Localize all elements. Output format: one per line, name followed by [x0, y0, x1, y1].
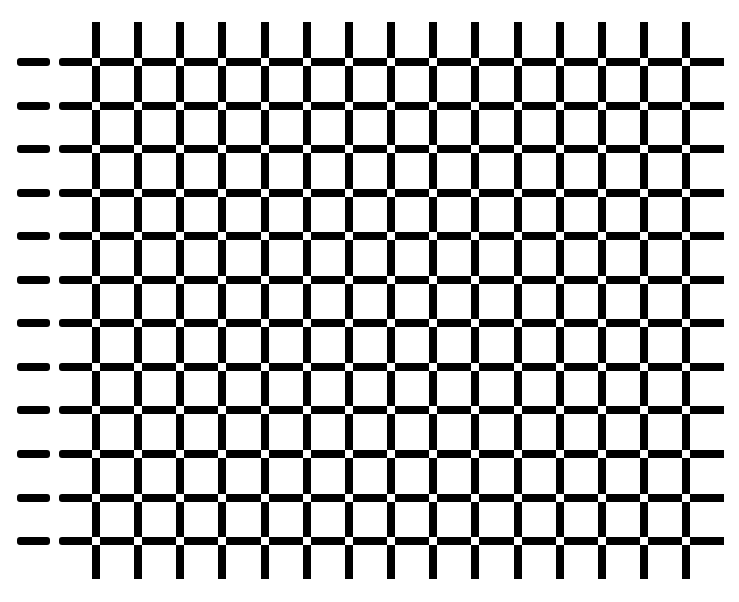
intersection-square: [218, 363, 226, 371]
intersection-square: [471, 276, 479, 284]
intersection-square: [261, 276, 269, 284]
intersection-square: [92, 145, 100, 153]
left-dash-segment: [17, 494, 50, 502]
intersection-square: [261, 537, 269, 545]
intersection-square: [471, 450, 479, 458]
intersection-square: [640, 319, 648, 327]
intersection-square: [640, 145, 648, 153]
intersection-square: [429, 406, 437, 414]
intersection-square: [261, 319, 269, 327]
intersection-square: [429, 145, 437, 153]
left-dash-segment: [17, 232, 50, 240]
intersection-square: [598, 276, 606, 284]
intersection-square: [176, 189, 184, 197]
intersection-square: [303, 537, 311, 545]
intersection-square: [682, 494, 690, 502]
left-dash-segment: [17, 450, 50, 458]
intersection-square: [598, 102, 606, 110]
intersection-square: [429, 276, 437, 284]
intersection-square: [134, 363, 142, 371]
intersection-square: [429, 494, 437, 502]
intersection-square: [134, 537, 142, 545]
intersection-square: [387, 102, 395, 110]
intersection-square: [218, 232, 226, 240]
left-dash-segment: [17, 276, 50, 284]
intersection-square: [387, 58, 395, 66]
intersection-square: [134, 406, 142, 414]
intersection-square: [345, 537, 353, 545]
intersection-square: [176, 494, 184, 502]
intersection-square: [387, 189, 395, 197]
intersection-square: [345, 102, 353, 110]
intersection-square: [598, 145, 606, 153]
intersection-square: [387, 450, 395, 458]
intersection-square: [514, 58, 522, 66]
intersection-square: [303, 232, 311, 240]
intersection-square: [471, 189, 479, 197]
intersection-square: [176, 145, 184, 153]
intersection-square: [556, 276, 564, 284]
intersection-square: [471, 406, 479, 414]
intersection-square: [92, 537, 100, 545]
intersection-square: [261, 406, 269, 414]
intersection-square: [556, 189, 564, 197]
intersection-square: [303, 276, 311, 284]
intersection-square: [514, 145, 522, 153]
intersection-square: [682, 450, 690, 458]
intersection-square: [682, 232, 690, 240]
intersection-square: [303, 494, 311, 502]
intersection-square: [471, 145, 479, 153]
intersection-square: [176, 537, 184, 545]
intersection-square: [218, 406, 226, 414]
intersection-square: [134, 102, 142, 110]
intersection-square: [345, 406, 353, 414]
left-dash-segment: [17, 406, 50, 414]
intersection-square: [556, 58, 564, 66]
intersection-square: [682, 406, 690, 414]
intersection-square: [92, 232, 100, 240]
intersection-square: [218, 319, 226, 327]
intersection-square: [387, 406, 395, 414]
intersection-square: [92, 276, 100, 284]
intersection-square: [134, 276, 142, 284]
intersection-square: [261, 189, 269, 197]
intersection-square: [345, 450, 353, 458]
intersection-square: [514, 102, 522, 110]
intersection-square: [345, 189, 353, 197]
intersection-square: [598, 450, 606, 458]
intersection-square: [261, 58, 269, 66]
intersection-square: [471, 58, 479, 66]
intersection-square: [556, 102, 564, 110]
intersection-square: [387, 494, 395, 502]
intersection-square: [176, 363, 184, 371]
intersection-square: [218, 494, 226, 502]
intersection-square: [134, 189, 142, 197]
intersection-square: [682, 537, 690, 545]
intersection-square: [598, 58, 606, 66]
intersection-square: [556, 406, 564, 414]
intersection-square: [598, 537, 606, 545]
intersection-square: [134, 145, 142, 153]
intersection-square: [598, 319, 606, 327]
intersection-square: [471, 319, 479, 327]
intersection-square: [261, 494, 269, 502]
intersection-square: [682, 189, 690, 197]
intersection-square: [514, 232, 522, 240]
intersection-square: [218, 102, 226, 110]
intersection-square: [556, 450, 564, 458]
intersection-square: [134, 450, 142, 458]
intersection-square: [176, 232, 184, 240]
intersection-square: [640, 450, 648, 458]
intersection-square: [429, 319, 437, 327]
intersection-square: [218, 189, 226, 197]
intersection-square: [598, 189, 606, 197]
intersection-square: [134, 319, 142, 327]
intersection-square: [556, 537, 564, 545]
intersection-square: [303, 58, 311, 66]
intersection-square: [261, 232, 269, 240]
left-dash-segment: [17, 102, 50, 110]
intersection-square: [471, 494, 479, 502]
intersection-square: [556, 232, 564, 240]
intersection-square: [218, 450, 226, 458]
intersection-square: [387, 537, 395, 545]
